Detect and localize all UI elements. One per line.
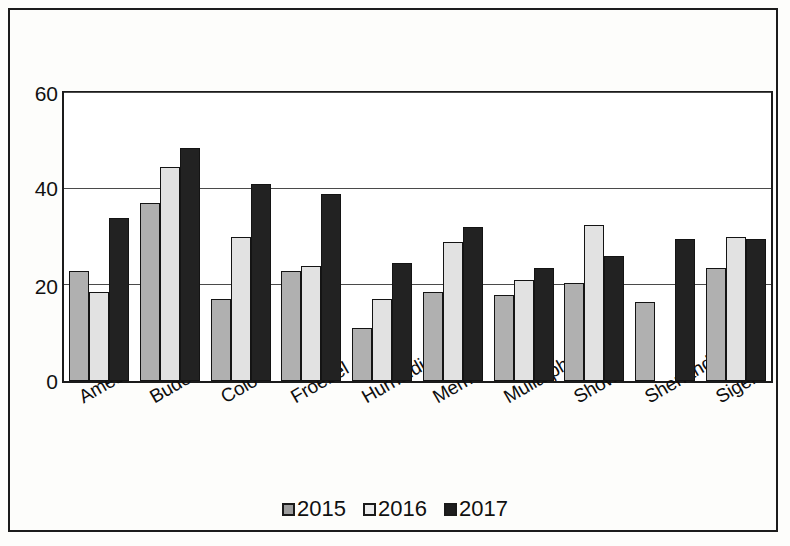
legend-item[interactable]: 2017: [444, 498, 508, 520]
bar: [534, 268, 554, 381]
y-axis-tick-label: 60: [6, 83, 58, 104]
bar: [180, 148, 200, 381]
legend-swatch-2016-icon: [363, 503, 376, 516]
bar: [726, 237, 746, 381]
plot-area: [62, 91, 773, 383]
legend-item[interactable]: 2016: [363, 498, 427, 520]
bars-layer: [64, 93, 771, 381]
bar: [281, 271, 301, 381]
bar: [514, 280, 534, 381]
bar: [89, 292, 109, 381]
legend-swatch-2017-icon: [444, 503, 457, 516]
bar: [706, 268, 726, 381]
chart-legend: 201520162017: [0, 498, 790, 520]
bar: [69, 271, 89, 381]
bar: [109, 218, 129, 381]
bar: [301, 266, 321, 381]
y-axis-tick-label: 0: [6, 371, 58, 392]
bar: [251, 184, 271, 381]
bar: [321, 194, 341, 381]
bar: [443, 242, 463, 381]
bar: [604, 256, 624, 381]
bar: [584, 225, 604, 381]
bar: [494, 295, 514, 381]
bar: [140, 203, 160, 381]
bar: [211, 299, 231, 381]
y-axis-tick-label: 40: [6, 178, 58, 199]
bar: [352, 328, 372, 381]
bar: [392, 263, 412, 381]
bar: [463, 227, 483, 381]
chart-screenshot: 60 40 20 0 AmesBuderColoFroebelHurnoldiM…: [0, 0, 790, 546]
legend-label: 2017: [459, 498, 508, 520]
bar: [423, 292, 443, 381]
legend-label: 2015: [297, 498, 346, 520]
bar: [635, 302, 655, 381]
bar: [231, 237, 251, 381]
y-axis-tick-label: 20: [6, 276, 58, 297]
bar: [675, 239, 695, 381]
legend-label: 2016: [378, 498, 427, 520]
bar: [564, 283, 584, 381]
legend-swatch-2015-icon: [282, 503, 295, 516]
bar: [372, 299, 392, 381]
bar: [160, 167, 180, 381]
bar: [746, 239, 766, 381]
x-axis-category-labels: AmesBuderColoFroebelHurnoldiMemMullarphy…: [62, 383, 773, 478]
y-axis: 60 40 20 0: [0, 0, 58, 546]
legend-item[interactable]: 2015: [282, 498, 346, 520]
